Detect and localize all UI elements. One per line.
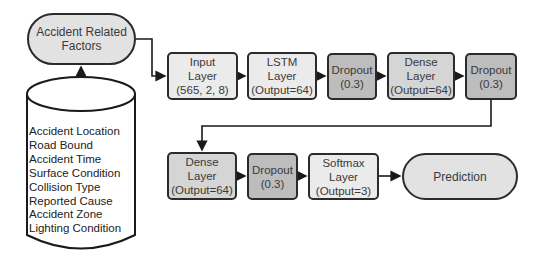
- factor-item: Lighting Condition: [29, 222, 121, 236]
- node-label: Layer: [268, 69, 297, 83]
- node-label: Layer: [188, 69, 217, 83]
- factor-item: Accident Location: [29, 125, 121, 139]
- factor-item: Accident Time: [29, 153, 121, 167]
- node-label: (Output=64): [251, 83, 313, 97]
- node-label: Softmax: [322, 156, 364, 170]
- factor-item: Accident Zone: [29, 208, 121, 222]
- dropout-node-2: Dropout (0.3): [465, 53, 517, 100]
- input-layer-node: Input Layer (565, 2, 8): [167, 52, 238, 100]
- factor-item: Road Bound: [29, 139, 121, 153]
- node-label: Layer: [407, 69, 436, 83]
- node-label: (Output=3): [316, 184, 371, 198]
- node-label: Dropout: [471, 63, 512, 77]
- factor-list: Accident Location Road Bound Accident Ti…: [29, 125, 121, 236]
- factor-item: Surface Condition: [29, 167, 121, 181]
- node-label: (Output=64): [171, 183, 233, 197]
- node-label: (0.3): [479, 77, 503, 91]
- dense-layer-node-2: Dense Layer (Output=64): [167, 152, 237, 200]
- node-label: Factors: [61, 39, 101, 53]
- factor-item: Collision Type: [29, 181, 121, 195]
- prediction-node: Prediction: [402, 153, 518, 200]
- node-label: Prediction: [433, 170, 486, 184]
- node-label: Input: [190, 55, 216, 69]
- node-label: Dense: [185, 155, 218, 169]
- node-label: Dropout: [252, 163, 293, 177]
- arrow-factors-to-input: [136, 39, 165, 76]
- node-label: Dropout: [332, 63, 373, 77]
- dropout-node-1: Dropout (0.3): [327, 53, 377, 100]
- factor-item: Reported Cause: [29, 195, 121, 209]
- node-label: (0.3): [261, 177, 285, 191]
- softmax-layer-node: Softmax Layer (Output=3): [308, 153, 379, 200]
- node-label: Accident Related: [36, 25, 127, 39]
- accident-related-factors-node: Accident Related Factors: [27, 13, 136, 65]
- node-label: (565, 2, 8): [176, 83, 228, 97]
- node-label: Dense: [404, 55, 437, 69]
- arrow-dropout2-to-dense2: [202, 100, 491, 150]
- node-label: Layer: [188, 169, 217, 183]
- node-label: (0.3): [340, 77, 364, 91]
- dense-layer-node-1: Dense Layer (Output=64): [387, 52, 455, 100]
- lstm-layer-node: LSTM Layer (Output=64): [247, 52, 317, 100]
- node-label: LSTM: [267, 55, 298, 69]
- node-label: (Output=64): [390, 83, 452, 97]
- dropout-node-3: Dropout (0.3): [247, 153, 298, 200]
- node-label: Layer: [329, 170, 358, 184]
